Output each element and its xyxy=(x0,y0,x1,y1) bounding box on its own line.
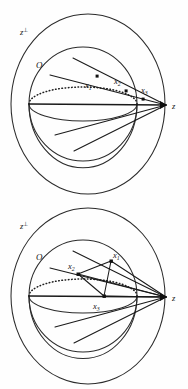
point-x2-label-sub-bottom: 2 xyxy=(72,266,75,272)
point-x2-label-bottom: x2 xyxy=(67,261,75,272)
point-x3-marker-top xyxy=(142,98,145,101)
meridian-front-bottom xyxy=(29,296,137,359)
meridian-front-top xyxy=(29,104,137,168)
point-x2-label-sub-top: 2 xyxy=(118,81,121,87)
hyperplane-label-sup-top: ⊥ xyxy=(23,27,28,33)
point-x3-label-sub-top: 3 xyxy=(144,90,148,96)
ray-lower-top xyxy=(74,105,166,151)
point-x3-label-sub-bottom: 3 xyxy=(96,306,100,312)
point-x2-marker-top xyxy=(125,89,128,92)
chord-x1-x3-bottom xyxy=(104,261,111,296)
center-label-top: O xyxy=(36,60,43,70)
point-x3-label-top: x3 xyxy=(140,85,148,96)
focus-label-bottom: z xyxy=(171,293,176,303)
figure-root: z⊥ O x1 x2 x3 z xyxy=(0,0,188,389)
point-x2-marker-bottom xyxy=(77,273,80,276)
equator-back-dotted-bottom xyxy=(29,279,137,296)
hyperplane-label-sup-bottom: ⊥ xyxy=(23,221,28,227)
center-label-bottom: O xyxy=(36,252,43,262)
point-x1-label-sub-bottom: 1 xyxy=(117,255,120,261)
central-axis-top xyxy=(29,104,166,105)
diagram-bottom-panel: z⊥ O x1 x2 x3 z xyxy=(0,196,188,389)
equator-back-dotted-top xyxy=(29,87,137,104)
point-x3-marker-bottom xyxy=(103,295,106,298)
point-x1-marker-bottom xyxy=(110,260,113,263)
ray-upper-mid-top xyxy=(50,75,166,105)
focus-vertex-bottom xyxy=(160,293,167,301)
ray-from-x1-bottom xyxy=(111,261,166,297)
hyperplane-label-top: z⊥ xyxy=(19,27,28,37)
equator-front-solid-top xyxy=(29,104,137,121)
ray-lower-mid-top xyxy=(55,105,166,135)
diagram-top-panel: z⊥ O x1 x2 x3 z xyxy=(0,0,188,196)
ray-lower-mid-bottom xyxy=(55,297,166,327)
focus-label-top: z xyxy=(171,101,176,111)
point-x1-label-bottom: x1 xyxy=(112,250,120,261)
point-x1-label-top: x1 xyxy=(84,80,92,91)
focus-vertex-top xyxy=(160,101,167,109)
point-x1-label-sub-top: 1 xyxy=(89,85,92,91)
point-x2-label-top: x2 xyxy=(113,76,121,87)
point-x1-marker-top xyxy=(96,75,99,78)
equator-front-solid-bottom xyxy=(29,296,137,313)
point-x3-label-bottom: x3 xyxy=(92,301,100,312)
hyperplane-label-bottom: z⊥ xyxy=(19,221,28,231)
